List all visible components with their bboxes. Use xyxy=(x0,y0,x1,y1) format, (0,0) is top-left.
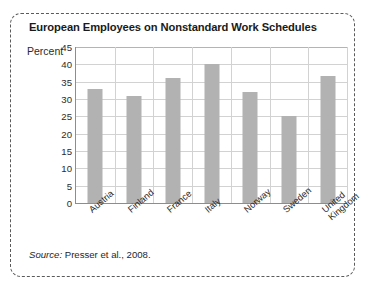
y-axis-tick: 45 xyxy=(61,42,72,53)
y-axis-tick: 20 xyxy=(61,128,72,139)
bar-austria xyxy=(88,89,103,203)
gridline-vertical xyxy=(192,47,193,203)
gridline-horizontal xyxy=(76,47,347,48)
y-axis-tick: 30 xyxy=(61,94,72,105)
gridline-vertical xyxy=(231,47,232,203)
y-axis-tick: 10 xyxy=(61,163,72,174)
source-note: Source: Presser et al., 2008. xyxy=(29,249,151,260)
y-axis-tick: 35 xyxy=(61,76,72,87)
gridline-vertical xyxy=(347,47,348,203)
gridline-vertical xyxy=(308,47,309,203)
plot-wrapper: 454035302520151050 AustriaFinlandFranceI… xyxy=(75,47,347,204)
y-axis-tick: 5 xyxy=(67,180,72,191)
figure-card: European Employees on Nonstandard Work S… xyxy=(10,13,355,277)
bar-finland xyxy=(127,96,142,203)
source-citation: Presser et al., 2008. xyxy=(62,249,151,260)
y-axis-tick: 25 xyxy=(61,111,72,122)
y-axis-tick: 15 xyxy=(61,146,72,157)
source-label: Source: xyxy=(29,249,62,260)
gridline-vertical xyxy=(153,47,154,203)
gridline-vertical xyxy=(115,47,116,203)
bar-france xyxy=(165,78,180,203)
bar-norway xyxy=(243,92,258,203)
chart-title: European Employees on Nonstandard Work S… xyxy=(29,21,317,33)
y-axis-unit-label: Percent xyxy=(27,45,63,57)
y-axis-tick: 0 xyxy=(67,198,72,209)
plot-area: 454035302520151050 AustriaFinlandFranceI… xyxy=(75,47,347,204)
bar-sweden xyxy=(281,116,296,203)
y-axis-tick: 40 xyxy=(61,59,72,70)
bar-united-kingdom xyxy=(320,76,335,203)
gridline-vertical xyxy=(270,47,271,203)
bar-italy xyxy=(204,64,219,203)
